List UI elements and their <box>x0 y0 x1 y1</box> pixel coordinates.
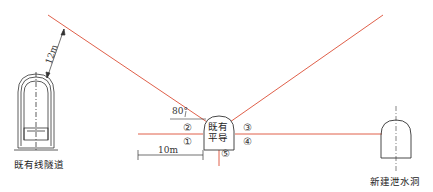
marker-1: ① <box>183 137 192 147</box>
new-drainage-shape <box>381 106 411 172</box>
marker-3: ③ <box>243 123 252 133</box>
marker-2: ② <box>183 123 192 133</box>
pilot-label-top: 既有 <box>208 122 228 132</box>
pilot-label-bottom: 平导 <box>208 133 228 143</box>
existing-tunnel-caption: 既有线隧道 <box>14 160 64 170</box>
existing-tunnel-shape <box>14 72 58 150</box>
diagram-canvas <box>0 0 433 192</box>
label-angle: 80° <box>172 107 188 116</box>
label-10m: 10m <box>158 146 178 155</box>
new-drainage-caption: 新建泄水洞 <box>370 177 420 187</box>
marker-5: ⑤ <box>221 149 230 159</box>
marker-4: ④ <box>243 137 252 147</box>
